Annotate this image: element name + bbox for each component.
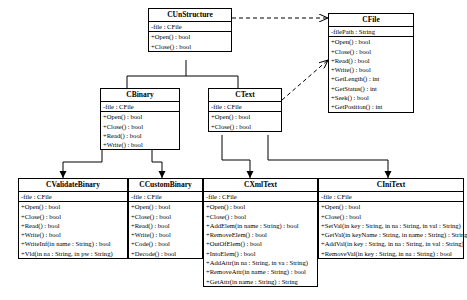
class-name-cxmltext: CXmlText	[204, 179, 317, 192]
operation-row: +OutOfElem() : bool	[204, 239, 317, 248]
attribute-row: -file : CFile	[129, 192, 202, 201]
operation-row: +Open() : bool	[329, 37, 413, 46]
link-cbinary-to-ccustombinary	[152, 148, 162, 178]
attribute-row: -file : CFile	[101, 102, 179, 111]
operation-row: +Open() : bool	[209, 112, 281, 121]
class-operations-cxmltext: +Open() : bool +Close() : bool +AddElem(…	[204, 202, 317, 286]
link-cbinary-to-cvalidatebinary	[63, 148, 102, 178]
operation-row: +Read() : bool	[101, 131, 179, 140]
operation-row: +AddElem(in name : String) : bool	[204, 221, 317, 230]
operation-row: +Close() : bool	[19, 212, 127, 221]
operation-row: +RemoveVal(in key : String, in na : Stri…	[319, 249, 463, 258]
class-name-cinitext: CIniText	[319, 179, 463, 192]
class-box-cunstructure[interactable]: CUnStructure -file : CFile +Open() : boo…	[148, 8, 232, 52]
class-box-ccustombinary[interactable]: CCustomBinary -file : CFile +Open() : bo…	[128, 178, 203, 259]
link-cunstructure-to-cbinary	[127, 60, 186, 88]
link-ctext-to-cinitext	[268, 135, 388, 178]
operation-row: +GetAttr(in name : String) : String	[204, 277, 317, 286]
class-operations-cinitext: +Open() : bool +Close() : bool +SetVal(i…	[319, 202, 463, 258]
operation-row: +Write() : bool	[19, 230, 127, 239]
class-box-ctext[interactable]: CText -file : CFile +Open() : bool +Clos…	[208, 88, 282, 132]
operation-row: +SetVal(in key : String, in na : String,…	[319, 221, 463, 230]
class-box-cfile[interactable]: CFile -filePath : String +Open() : bool …	[328, 13, 414, 113]
operation-row: +GetLength() : int	[329, 74, 413, 83]
class-operations-cfile: +Open() : bool +Close() : bool +Read() :…	[329, 37, 413, 111]
operation-row: +IntoElem() : bool	[204, 249, 317, 258]
operation-row: +Close() : bool	[149, 42, 231, 51]
operation-row: +AddVal(in key : String, in na : String,…	[319, 239, 463, 248]
uml-diagram-canvas: CUnStructure -file : CFile +Open() : boo…	[0, 0, 467, 300]
operation-row: +Open() : bool	[129, 202, 202, 211]
class-operations-cunstructure: +Open() : bool +Close() : bool	[149, 32, 231, 51]
operation-row: +Close() : bool	[101, 122, 179, 131]
operation-row: +GetPosition() : int	[329, 102, 413, 111]
class-box-cvalidatebinary[interactable]: CValidateBinary -file : CFile +Open() : …	[18, 178, 128, 259]
operation-row: +Seek() : bool	[329, 93, 413, 102]
operation-row: +Write() : bool	[101, 140, 179, 149]
operation-row: +Write() : bool	[329, 65, 413, 74]
attribute-row: -file : CFile	[149, 22, 231, 31]
class-attributes-cvalidatebinary: -file : CFile	[19, 192, 127, 202]
operation-row: +Close() : bool	[129, 212, 202, 221]
operation-row: +GetVal(in keyName : String, in name : S…	[319, 230, 463, 239]
class-operations-cbinary: +Open() : bool +Close() : bool +Read() :…	[101, 112, 179, 149]
class-name-ccustombinary: CCustomBinary	[129, 179, 202, 192]
class-name-cunstructure: CUnStructure	[149, 9, 231, 22]
operation-row: +Read() : bool	[129, 221, 202, 230]
operation-row: +Open() : bool	[319, 202, 463, 211]
link-ctext-to-cfile	[282, 60, 328, 100]
class-name-cfile: CFile	[329, 14, 413, 27]
class-box-cxmltext[interactable]: CXmlText -file : CFile +Open() : bool +C…	[203, 178, 318, 287]
class-attributes-ctext: -file : CFile	[209, 102, 281, 112]
attribute-row: -file : CFile	[209, 102, 281, 111]
operation-row: +Code() : bool	[129, 239, 202, 248]
attribute-row: -file : CFile	[204, 192, 317, 201]
operation-row: +Close() : bool	[204, 212, 317, 221]
class-attributes-cinitext: -file : CFile	[319, 192, 463, 202]
operation-row: +RemoveAttr(in name : String) : bool	[204, 267, 317, 276]
operation-row: +GetStatus() : int	[329, 84, 413, 93]
class-operations-cvalidatebinary: +Open() : bool +Close() : bool +Read() :…	[19, 202, 127, 258]
class-name-cbinary: CBinary	[101, 89, 179, 102]
class-operations-ctext: +Open() : bool +Close() : bool	[209, 112, 281, 131]
operation-row: +Open() : bool	[19, 202, 127, 211]
operation-row: +Open() : bool	[149, 32, 231, 41]
link-ctext-to-cxmltext	[222, 135, 250, 178]
class-box-cinitext[interactable]: CIniText -file : CFile +Open() : bool +C…	[318, 178, 464, 259]
class-attributes-cxmltext: -file : CFile	[204, 192, 317, 202]
class-attributes-cunstructure: -file : CFile	[149, 22, 231, 32]
attribute-row: -file : CFile	[319, 192, 463, 201]
operation-row: +Read() : bool	[19, 221, 127, 230]
operation-row: +Vld(in na : String, in pw : String)	[19, 249, 127, 258]
attribute-row: -file : CFile	[19, 192, 127, 201]
operation-row: +Read() : bool	[329, 56, 413, 65]
operation-row: +Decode() : bool	[129, 249, 202, 258]
operation-row: +Close() : bool	[319, 212, 463, 221]
class-name-ctext: CText	[209, 89, 281, 102]
operation-row: +Open() : bool	[204, 202, 317, 211]
class-operations-ccustombinary: +Open() : bool +Close() : bool +Read() :…	[129, 202, 202, 258]
operation-row: +Close() : bool	[209, 122, 281, 131]
class-attributes-cbinary: -file : CFile	[101, 102, 179, 112]
operation-row: +RemoveElem() : bool	[204, 230, 317, 239]
operation-row: +Write() : bool	[129, 230, 202, 239]
attribute-row: -filePath : String	[329, 27, 413, 36]
operation-row: +WriteInf(in name : String) : bool	[19, 239, 127, 248]
class-attributes-ccustombinary: -file : CFile	[129, 192, 202, 202]
class-attributes-cfile: -filePath : String	[329, 27, 413, 37]
operation-row: +AddAttr(in na : String, in va : String)	[204, 258, 317, 267]
operation-row: +Close() : bool	[329, 47, 413, 56]
operation-row: +Open() : bool	[101, 112, 179, 121]
class-box-cbinary[interactable]: CBinary -file : CFile +Open() : bool +Cl…	[100, 88, 180, 150]
class-name-cvalidatebinary: CValidateBinary	[19, 179, 127, 192]
link-cunstructure-to-ctext	[186, 76, 238, 88]
